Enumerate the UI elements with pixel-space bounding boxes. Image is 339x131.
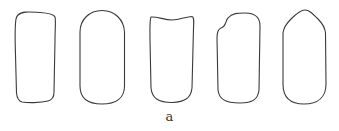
outline-shape-2 bbox=[80, 11, 125, 105]
outline-shape-3 bbox=[150, 17, 194, 103]
outline-shape-5 bbox=[283, 10, 326, 104]
outline-shape-4 bbox=[217, 13, 260, 103]
panel-label: a bbox=[0, 109, 339, 124]
outline-shape-1 bbox=[15, 12, 55, 103]
